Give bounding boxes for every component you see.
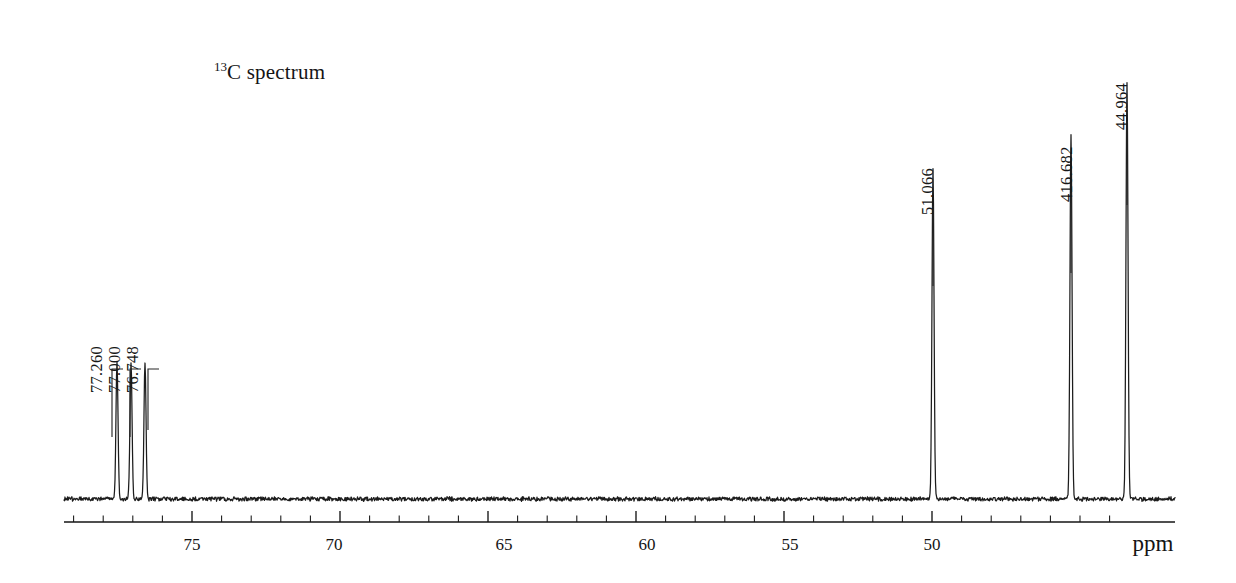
axis-tick-label-65: 65 xyxy=(496,535,513,555)
axis-tick-label-75: 75 xyxy=(184,535,201,555)
peak-label-77-260: 77.260 xyxy=(87,346,107,393)
axis-tick-label-60: 60 xyxy=(639,535,656,555)
peak-leader-lines xyxy=(112,121,1127,437)
peak-label-44-964: 44.964 xyxy=(1112,83,1132,130)
nmr-spectrum-figure: 13C spectrum 77.260 77.000 76.748 51.066… xyxy=(0,0,1236,583)
peak-label-76-748: 76.748 xyxy=(123,346,143,393)
axis-tick-label-55: 55 xyxy=(782,535,799,555)
x-axis xyxy=(64,511,1175,522)
peak-label-51-066: 51.066 xyxy=(918,168,938,215)
peak-label-77-000: 77.000 xyxy=(105,346,125,393)
spectrum-trace xyxy=(64,83,1175,502)
peak-label-416-682: 416.682 xyxy=(1057,146,1077,202)
axis-tick-label-50: 50 xyxy=(924,535,941,555)
spectrum-trace-line xyxy=(64,83,1175,502)
axis-unit-label: ppm xyxy=(1133,531,1174,557)
leader-line-76-748 xyxy=(148,369,159,381)
axis-tick-label-70: 70 xyxy=(326,535,343,555)
spectrum-plot xyxy=(0,0,1236,583)
